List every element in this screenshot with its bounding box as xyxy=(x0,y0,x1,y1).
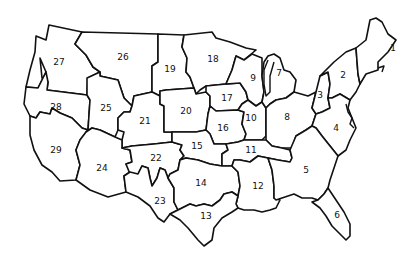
region-label-23: 23 xyxy=(154,196,165,206)
region-label-20: 20 xyxy=(180,106,192,116)
region-label-5: 5 xyxy=(303,165,309,175)
region-label-18: 18 xyxy=(207,54,219,64)
cape-cod-outline xyxy=(378,66,384,72)
region-label-9: 9 xyxy=(250,73,256,83)
region-label-13: 13 xyxy=(200,211,211,221)
region-label-17: 17 xyxy=(221,93,232,103)
region-label-4: 4 xyxy=(333,123,339,133)
region-label-3: 3 xyxy=(317,90,323,100)
region-label-16: 16 xyxy=(217,123,229,133)
region-label-29: 29 xyxy=(50,145,62,155)
region-label-6: 6 xyxy=(334,210,340,220)
region-label-10: 10 xyxy=(245,113,257,123)
region-label-12: 12 xyxy=(252,181,263,191)
region-label-15: 15 xyxy=(191,141,202,151)
region-label-22: 22 xyxy=(150,153,161,163)
region-label-19: 19 xyxy=(164,64,176,74)
us-region-map: 1 2 3 4 5 6 7 8 9 10 11 12 13 14 15 16 1… xyxy=(0,0,409,265)
region-label-7: 7 xyxy=(276,68,282,78)
region-label-26: 26 xyxy=(117,52,129,62)
region-label-8: 8 xyxy=(284,112,290,122)
region-label-21: 21 xyxy=(139,116,150,126)
region-label-28: 28 xyxy=(50,102,62,112)
region-label-24: 24 xyxy=(96,163,108,173)
region-label-2: 2 xyxy=(340,70,346,80)
region-label-25: 25 xyxy=(100,103,111,113)
region-label-11: 11 xyxy=(245,145,256,155)
region-label-27: 27 xyxy=(53,57,64,67)
region-label-1: 1 xyxy=(390,43,396,53)
region-label-14: 14 xyxy=(195,178,207,188)
